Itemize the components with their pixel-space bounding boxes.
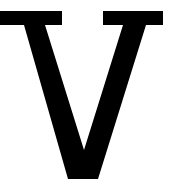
glyph-vector <box>0 0 169 190</box>
glyph-canvas: V <box>0 0 169 190</box>
